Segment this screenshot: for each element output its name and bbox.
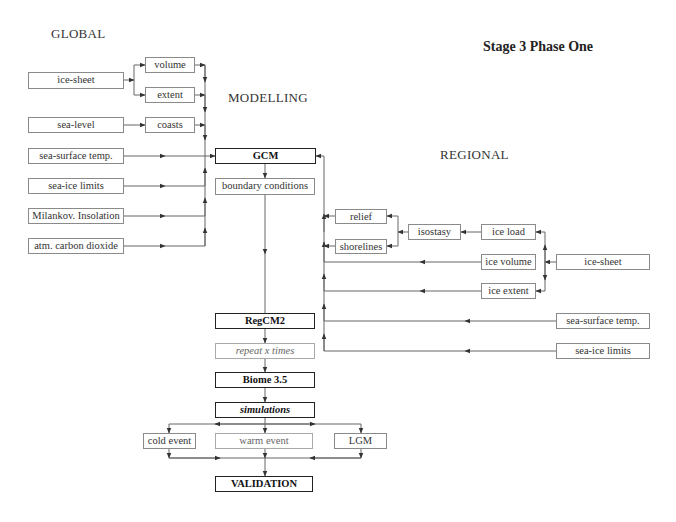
- coasts-box: coasts: [145, 117, 195, 133]
- biome-box: Biome 3.5: [215, 372, 315, 388]
- carbon-dioxide-box: atm. carbon dioxide: [28, 238, 124, 254]
- ice-extent-box: ice extent: [481, 283, 536, 299]
- ice-volume-box: ice volume: [481, 254, 536, 270]
- flow-diagram: GLOBAL MODELLING REGIONAL Stage 3 Phase …: [0, 0, 676, 522]
- global-ice-sheet-box: ice-sheet: [28, 72, 124, 89]
- extent-box: extent: [145, 87, 195, 103]
- validation-box: VALIDATION: [215, 476, 313, 492]
- gcm-box: GCM: [215, 148, 316, 164]
- regional-ice-sheet-box: ice-sheet: [556, 254, 650, 270]
- milankovitch-insolation-box: Milankov. Insolation: [28, 208, 124, 224]
- shorelines-box: shorelines: [335, 239, 387, 254]
- warm-event-box: warm event: [215, 433, 313, 449]
- boundary-conditions-box: boundary conditions: [215, 178, 315, 195]
- simulations-box: simulations: [215, 402, 315, 418]
- regional-section-label: REGIONAL: [440, 147, 509, 163]
- isostasy-box: isostasy: [408, 224, 461, 240]
- relief-box: relief: [335, 209, 387, 224]
- modelling-section-label: MODELLING: [228, 90, 308, 106]
- regcm2-box: RegCM2: [215, 313, 315, 329]
- repeat-box: repeat x times: [215, 343, 315, 359]
- diagram-title: Stage 3 Phase One: [483, 39, 593, 55]
- global-section-label: GLOBAL: [51, 26, 106, 42]
- ice-load-box: ice load: [481, 224, 536, 240]
- global-sea-surface-temp-box: sea-surface temp.: [28, 148, 124, 164]
- regional-sea-ice-limits-box: sea-ice limits: [556, 343, 650, 359]
- volume-box: volume: [145, 57, 195, 73]
- sea-level-box: sea-level: [28, 117, 124, 133]
- lgm-box: LGM: [334, 433, 387, 449]
- cold-event-box: cold event: [143, 433, 196, 449]
- global-sea-ice-limits-box: sea-ice limits: [28, 178, 124, 194]
- regional-sea-surface-temp-box: sea-surface temp.: [556, 313, 650, 329]
